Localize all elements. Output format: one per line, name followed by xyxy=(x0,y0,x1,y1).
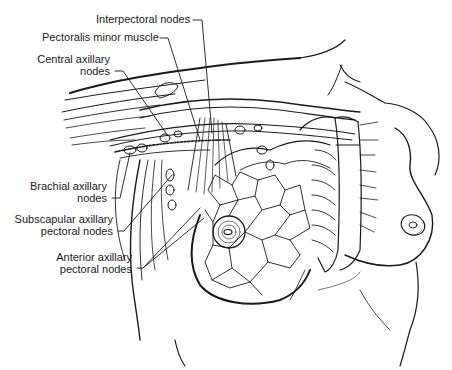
ribs-sternum xyxy=(215,117,378,300)
anatomy-figure: Interpectoral nodes Pectoralis minor mus… xyxy=(0,0,452,370)
label-brachial-axillary-line2: nodes xyxy=(15,192,107,205)
label-interpectoral-nodes: Interpectoral nodes xyxy=(96,13,188,26)
left-breast-dissected xyxy=(192,172,310,304)
label-anterior-axillary-line2: pectoral nodes xyxy=(30,263,132,276)
label-subscapular-line2: pectoral nodes xyxy=(5,225,113,238)
label-pectoralis-minor-muscle: Pectoralis minor muscle xyxy=(42,31,157,44)
label-central-axillary-line2: nodes xyxy=(30,65,110,78)
clavicle-vessels xyxy=(110,83,360,158)
